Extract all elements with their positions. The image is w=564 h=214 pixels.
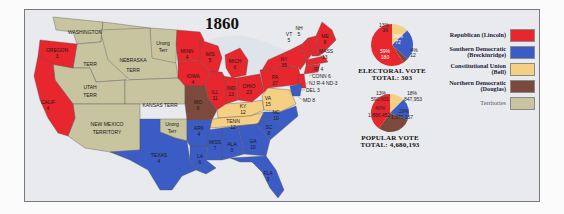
label-mo-ev: 9 <box>197 105 200 111</box>
legend-item-northern-democratic: Northern Democratic(Douglas) <box>440 78 535 94</box>
label-ind-ev: 13 <box>228 91 234 97</box>
label-nc-ev: 10 <box>273 115 279 121</box>
label-del: DEL 3 <box>306 87 320 93</box>
label-unorg-north-2: Terr <box>159 47 168 53</box>
legend-swatch-southern-democratic <box>510 46 535 59</box>
label-ohio-ev: 23 <box>246 89 252 95</box>
label-miss-ev: 7 <box>214 145 217 151</box>
label-wis-ev: 5 <box>209 57 212 63</box>
pie-label-cu-val: 39 <box>382 27 388 33</box>
label-unorg-north-1: Unorg <box>156 40 170 46</box>
legend: Republican (Lincoln) Southern Democratic… <box>440 27 535 112</box>
label-md: MD 8 <box>303 97 315 103</box>
label-mich-ev: 6 <box>234 64 237 70</box>
pie-label-rep-pct: 40% <box>375 105 386 111</box>
label-oregon-ev: 3 <box>56 53 59 59</box>
new-mexico-territory <box>68 104 140 152</box>
label-unorg-south-1: Unorg <box>165 121 179 127</box>
label-kansas: KANSAS TERR <box>142 102 178 108</box>
label-ny-ev: 35 <box>281 62 287 68</box>
pie-label-sd-val: 72 <box>395 39 401 45</box>
pie-label-nd-val: 12 <box>410 52 416 58</box>
pie-label-nd-val: 1,375,157 <box>391 114 413 120</box>
electoral-vote-total: TOTAL: 303 <box>354 75 430 82</box>
legend-label: Republican (Lincoln) <box>450 31 506 38</box>
label-new-mexico: NEW MEXICO <box>91 121 124 127</box>
label-utah: UTAH <box>83 84 97 90</box>
label-la-ev: 6 <box>199 159 202 165</box>
electoral-vote-caption: ELECTORAL VOTE TOTAL: 303 <box>354 68 430 82</box>
label-nh-ev: 5 <box>298 31 301 37</box>
label-iowa-ev: 4 <box>192 79 195 85</box>
legend-item-territories: Territories <box>440 95 535 111</box>
pie-label-cu-val: 590,631 <box>371 96 389 102</box>
label-texas-ev: 4 <box>158 158 161 164</box>
map-title: 1860 <box>205 14 239 34</box>
label-ark-ev: 4 <box>198 131 201 137</box>
legend-item-constitutional-union: Constitutional Union(Bell) <box>440 61 535 77</box>
label-ky-ev: 12 <box>240 109 246 115</box>
label-new-mexico-terr: TERRITORY <box>93 129 122 135</box>
popular-vote-total: TOTAL: 4,680,193 <box>350 142 430 149</box>
legend-swatch-territories <box>510 97 535 110</box>
pie-label-rep-val: 1,866,452 <box>368 112 390 118</box>
label-ri: RI 4 <box>314 66 323 72</box>
label-unorg-south-2: Terr <box>168 128 177 134</box>
label-ala-ev: 9 <box>231 147 234 153</box>
label-me-ev: 8 <box>324 39 327 45</box>
label-conn: CONN 6 <box>312 73 331 79</box>
state-florida <box>230 156 284 198</box>
legend-item-republican: Republican (Lincoln) <box>440 27 535 43</box>
pie-label-sd-val: 847,953 <box>404 96 422 102</box>
pie-label-rep-val: 180 <box>381 54 390 60</box>
label-nebraska: NEBRASKA <box>119 57 147 63</box>
popular-vote-caption: POPULAR VOTE TOTAL: 4,680,193 <box>350 135 430 149</box>
label-ga-ev: 10 <box>250 144 256 150</box>
legend-label: Territories <box>480 99 506 106</box>
label-minn-ev: 4 <box>186 54 189 60</box>
label-nebraska-terr: TERR <box>126 67 140 73</box>
kansas-territory <box>125 78 185 104</box>
legend-swatch-northern-democratic <box>510 80 535 93</box>
popular-vote-pie: 13% 590,631 18% 847,953 29% 1,375,157 40… <box>368 90 422 132</box>
electoral-vote-pie: 13% 39 24% 72 4% 12 59% 180 <box>371 22 418 66</box>
legend-label-sub: (Douglas) <box>449 86 506 93</box>
label-calif-ev: 4 <box>47 105 50 111</box>
label-va-ev: 15 <box>265 101 271 107</box>
legend-swatch-republican <box>510 29 535 42</box>
legend-item-southern-democratic: Southern Democratic(Breckinridge) <box>440 44 535 60</box>
label-nj: NJ R-4 ND-3 <box>309 80 338 86</box>
label-fla-ev: 3 <box>267 176 270 182</box>
label-utah-terr: TERR <box>83 92 97 98</box>
label-sc-ev: 8 <box>268 130 271 136</box>
label-ill-ev: 11 <box>212 95 217 101</box>
legend-label-sub: (Breckinridge) <box>449 52 506 59</box>
label-mass-ev: 13 <box>322 54 328 60</box>
legend-swatch-constitutional-union <box>510 63 535 76</box>
label-washington-terr: TERR <box>83 61 97 67</box>
legend-label-sub: (Bell) <box>450 69 506 76</box>
label-pa-ev: 27 <box>272 80 278 86</box>
label-washington: WASHINGTON <box>68 29 103 35</box>
label-tenn-ev: 12 <box>230 124 236 130</box>
label-vt-ev: 5 <box>288 37 291 43</box>
